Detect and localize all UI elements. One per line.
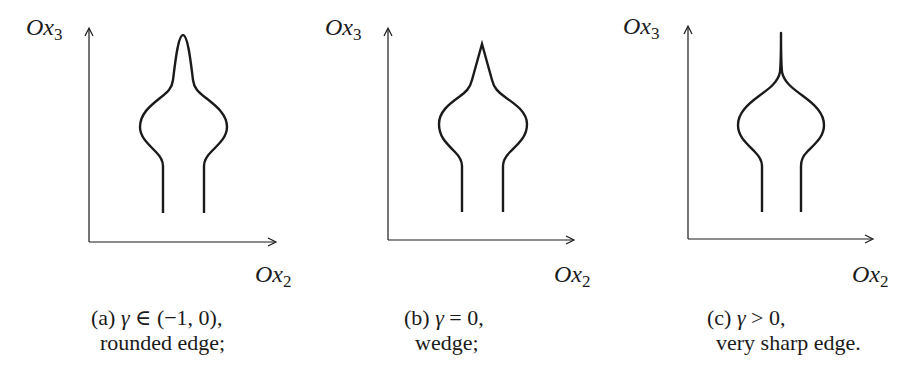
y-axis-label: Ox3 [325, 15, 361, 43]
x-axis-label: Ox2 [255, 262, 291, 290]
y-axis [85, 28, 93, 242]
panel-a-plot [0, 0, 310, 300]
gamma-symbol: γ [435, 305, 444, 330]
x-axis-label: Ox2 [852, 262, 888, 290]
gamma-symbol: γ [737, 305, 746, 330]
y-axis [384, 28, 392, 240]
rounded-edge-profile-curve [140, 35, 227, 213]
panel-a: Ox3 Ox2 (a) γ ∈ (−1, 0), rounded edge; [0, 0, 310, 379]
x-axis-label: Ox2 [554, 262, 590, 290]
x-axis [688, 235, 873, 243]
x-axis [388, 236, 574, 244]
panel-c-plot [610, 0, 920, 300]
x-axis [89, 238, 276, 246]
y-axis [684, 26, 692, 239]
panel-c: Ox3 Ox2 (c) γ > 0, very sharp edge. [610, 0, 920, 379]
caption-description: very sharp edge. [707, 330, 861, 355]
caption-description: rounded edge; [91, 330, 225, 355]
gamma-symbol: γ [121, 305, 130, 330]
y-axis-label: Ox3 [26, 15, 62, 43]
panel-b-caption: (b) γ = 0, wedge; [404, 305, 484, 355]
panel-b-plot [300, 0, 610, 300]
panel-b: Ox3 Ox2 (b) γ = 0, wedge; [300, 0, 610, 379]
panel-c-caption: (c) γ > 0, very sharp edge. [707, 305, 861, 355]
wedge-profile-curve [439, 44, 527, 212]
caption-description: wedge; [404, 330, 484, 355]
y-axis-label: Ox3 [623, 14, 659, 42]
panel-a-caption: (a) γ ∈ (−1, 0), rounded edge; [91, 305, 225, 355]
very-sharp-edge-profile-curve [738, 33, 824, 212]
